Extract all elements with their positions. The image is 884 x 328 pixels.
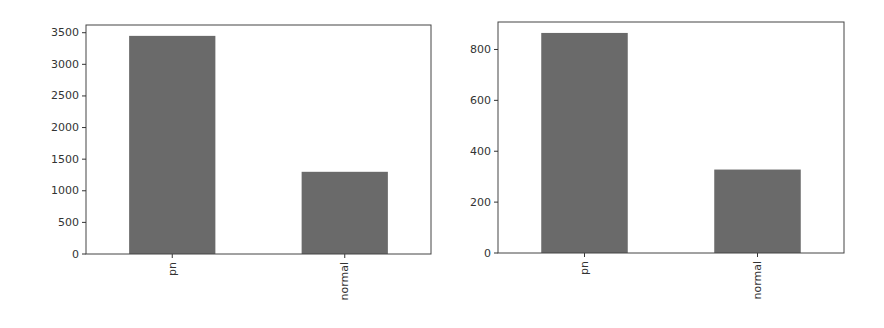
x-tick-label: normal bbox=[338, 262, 351, 301]
y-tick-label: 2500 bbox=[51, 89, 79, 102]
y-tick-label: 500 bbox=[58, 216, 79, 229]
y-tick-label: 200 bbox=[470, 196, 491, 209]
y-tick-label: 0 bbox=[484, 247, 491, 260]
chart-right-bar: pnnormal0200400600800 bbox=[438, 0, 854, 328]
y-tick-label: 1500 bbox=[51, 153, 79, 166]
bar-normal bbox=[714, 170, 801, 253]
y-tick-label: 3500 bbox=[51, 26, 79, 39]
x-tick-label: pn bbox=[578, 261, 591, 275]
y-tick-label: 2000 bbox=[51, 121, 79, 134]
y-tick-label: 0 bbox=[72, 248, 79, 261]
bar-normal bbox=[302, 172, 388, 254]
y-tick-label: 800 bbox=[470, 43, 491, 56]
x-tick-label: pn bbox=[166, 262, 179, 276]
bar-pn bbox=[129, 36, 215, 254]
y-tick-label: 400 bbox=[470, 145, 491, 158]
y-tick-label: 600 bbox=[470, 94, 491, 107]
y-tick-label: 1000 bbox=[51, 184, 79, 197]
chart-left-bar: pnnormal0500100015002000250030003500 bbox=[26, 0, 441, 328]
x-tick-label: normal bbox=[751, 261, 764, 300]
y-tick-label: 3000 bbox=[51, 58, 79, 71]
bar-pn bbox=[541, 33, 628, 253]
